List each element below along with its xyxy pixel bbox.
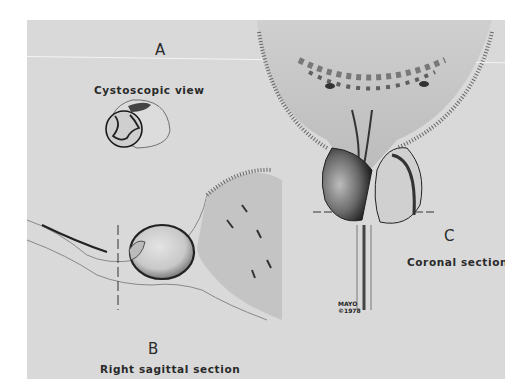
panel-a-caption: Cystoscopic view [94,84,205,96]
panel-a-letter: A [155,41,165,59]
illustration-panel: A Cystoscopic view B Right sagittal sect… [27,20,505,379]
credit-line-2: ©1978 [338,307,361,314]
anatomical-drawing [27,20,505,379]
credit-line-1: MAYO [338,300,361,307]
sagittal-section-drawing [27,170,282,320]
panel-b-letter: B [148,340,158,358]
cystoscopic-view-drawing [106,100,170,148]
panel-c-letter: C [444,227,454,245]
panel-b-caption: Right sagittal section [100,363,240,375]
panel-c-caption: Coronal section [407,256,505,268]
copyright-credit: MAYO ©1978 [338,300,361,314]
